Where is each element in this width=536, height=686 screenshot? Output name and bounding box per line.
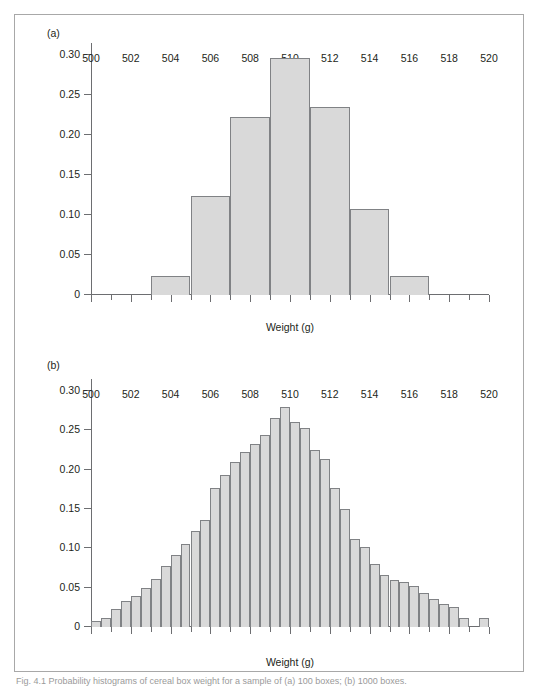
figure-frame: (a) 00.050.100.150.200.250.3050050250450… xyxy=(14,14,524,672)
panel-a-x-tick xyxy=(350,295,351,300)
panel-a-x-tick xyxy=(390,295,391,300)
panel-b: (b) 00.050.100.150.200.250.3050050250450… xyxy=(15,345,525,672)
panel-a-x-tick xyxy=(111,295,112,300)
panel-b-y-tick-label: 0.15 xyxy=(60,502,80,514)
histogram-bar xyxy=(131,596,141,627)
histogram-bar xyxy=(310,107,350,295)
panel-b-x-tick xyxy=(290,627,291,634)
panel-b-x-tick xyxy=(489,627,490,634)
panel-a-x-tick xyxy=(151,295,152,300)
panel-a-x-tick xyxy=(409,295,410,302)
histogram-bar xyxy=(260,435,270,627)
panel-b-plot-area: 00.050.100.150.200.250.30500502504506508… xyxy=(91,379,489,627)
histogram-bar xyxy=(340,509,350,627)
panel-b-y-tick-label: 0.05 xyxy=(60,581,80,593)
panel-a-y-tick: 0.20 xyxy=(84,134,91,135)
panel-a-x-tick xyxy=(489,295,490,302)
histogram-bar xyxy=(200,520,210,627)
panel-b-x-tick xyxy=(409,627,410,634)
panel-b-x-tick xyxy=(111,627,112,632)
panel-a-x-tick xyxy=(171,295,172,302)
panel-b-x-tick xyxy=(171,627,172,634)
panel-b-x-axis-title: Weight (g) xyxy=(91,656,489,668)
panel-b-x-tick xyxy=(91,627,92,634)
panel-a-y-tick-label: 0 xyxy=(74,288,80,300)
histogram-bar xyxy=(380,575,390,627)
histogram-bar xyxy=(220,475,230,627)
panel-b-x-tick xyxy=(469,627,470,632)
panel-a-label: (a) xyxy=(47,27,60,39)
panel-a-x-tick-label: 502 xyxy=(122,52,140,64)
panel-a-x-tick-label: 512 xyxy=(321,52,339,64)
panel-b-x-tick xyxy=(210,627,211,634)
panel-a-x-tick xyxy=(310,295,311,300)
histogram-bar xyxy=(101,618,111,627)
panel-a-y-tick-label: 0.20 xyxy=(60,128,80,140)
histogram-bar xyxy=(151,579,161,627)
panel-b-y-tick: 0.25 xyxy=(84,429,91,430)
panel-b-y-tick-label: 0.20 xyxy=(60,463,80,475)
panel-b-x-tick-label: 512 xyxy=(321,388,339,400)
histogram-bar xyxy=(419,593,429,627)
histogram-bar xyxy=(300,428,310,627)
panel-a-x-tick xyxy=(449,295,450,302)
panel-b-x-tick-label: 500 xyxy=(82,388,100,400)
panel-a-x-axis-title: Weight (g) xyxy=(91,321,489,333)
panel-a-y-tick: 0.15 xyxy=(84,174,91,175)
panel-b-y-axis xyxy=(91,379,92,627)
panel-b-x-tick xyxy=(151,627,152,632)
histogram-bar xyxy=(390,580,400,627)
panel-b-x-tick xyxy=(429,627,430,632)
panel-b-x-tick-label: 514 xyxy=(361,388,379,400)
histogram-bar xyxy=(459,618,469,627)
histogram-bar xyxy=(280,407,290,627)
panel-a-x-tick xyxy=(270,295,271,300)
panel-b-x-tick xyxy=(131,627,132,634)
histogram-bar xyxy=(409,586,419,627)
panel-a-y-tick: 0.10 xyxy=(84,214,91,215)
histogram-bar xyxy=(310,450,320,627)
histogram-bar xyxy=(230,117,270,295)
panel-b-x-tick-label: 510 xyxy=(281,388,299,400)
panel-a-y-axis xyxy=(91,43,92,295)
panel-a-y-tick-label: 0.30 xyxy=(60,48,80,60)
panel-a-x-tick xyxy=(250,295,251,302)
histogram-bar xyxy=(439,604,449,627)
panel-a-x-tick-label: 506 xyxy=(202,52,220,64)
histogram-bar xyxy=(429,599,439,627)
panel-b-x-tick xyxy=(449,627,450,634)
histogram-bar xyxy=(230,462,240,627)
histogram-bar xyxy=(91,621,101,627)
panel-a-x-tick xyxy=(370,295,371,302)
histogram-bar xyxy=(320,459,330,627)
panel-a-y-tick-label: 0.25 xyxy=(60,88,80,100)
panel-b-x-tick-label: 508 xyxy=(241,388,259,400)
histogram-bar xyxy=(210,488,220,627)
panel-a-x-tick-label: 508 xyxy=(241,52,259,64)
panel-b-y-tick: 0.05 xyxy=(84,587,91,588)
panel-a-x-tick-label: 514 xyxy=(361,52,379,64)
histogram-bar xyxy=(270,418,280,627)
histogram-bar xyxy=(191,531,201,627)
panel-a-y-tick: 0.25 xyxy=(84,94,91,95)
panel-a-x-tick xyxy=(91,295,92,302)
panel-b-x-tick-label: 502 xyxy=(122,388,140,400)
panel-b-x-tick xyxy=(230,627,231,632)
panel-b-y-tick-label: 0.10 xyxy=(60,541,80,553)
panel-b-x-tick xyxy=(330,627,331,634)
panel-a-y-tick: 0 xyxy=(84,294,91,295)
panel-a-x-tick-label: 504 xyxy=(162,52,180,64)
panel-b-y-tick: 0.15 xyxy=(84,508,91,509)
panel-b-y-tick-label: 0 xyxy=(74,620,80,632)
panel-b-x-tick xyxy=(310,627,311,632)
panel-a-x-tick xyxy=(469,295,470,300)
histogram-bar xyxy=(191,196,231,295)
figure-caption: Fig. 4.1 Probability histograms of cerea… xyxy=(16,676,520,686)
histogram-bar xyxy=(111,609,121,627)
panel-b-y-tick-label: 0.30 xyxy=(60,384,80,396)
panel-a-x-tick-label: 520 xyxy=(480,52,498,64)
panel-a: (a) 00.050.100.150.200.250.3050050250450… xyxy=(15,15,525,345)
panel-b-x-tick-label: 518 xyxy=(440,388,458,400)
histogram-bar xyxy=(360,547,370,627)
panel-a-y-tick-label: 0.05 xyxy=(60,248,80,260)
